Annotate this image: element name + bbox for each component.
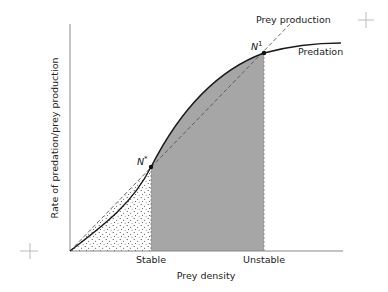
- y-axis-label: Rate of predation/prey production: [49, 57, 60, 218]
- n-star-label: N*: [137, 155, 148, 167]
- n-one-point: [262, 51, 266, 55]
- stable-label: Stable: [136, 254, 166, 265]
- predation-label: Predation: [298, 46, 343, 57]
- shaded-region: [151, 53, 264, 251]
- prey-production-label: Prey production: [256, 14, 331, 25]
- registration-mark-bottom-left: [20, 243, 38, 259]
- predation-diagram: N* N1 Prey production Predation Stable U…: [0, 0, 388, 292]
- n-one-label: N1: [251, 40, 263, 52]
- registration-mark-top-right: [358, 12, 374, 28]
- unstable-label: Unstable: [243, 254, 285, 265]
- x-axis-label: Prey density: [177, 270, 236, 281]
- n-star-point: [149, 165, 153, 169]
